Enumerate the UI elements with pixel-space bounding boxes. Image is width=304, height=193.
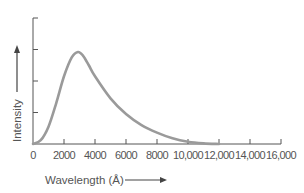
x-tick-labels: 0200040006000800010,00012,00014,00016,00… — [30, 149, 296, 161]
x-tick-label: 14,000 — [235, 149, 266, 161]
x-tick-label: 2000 — [53, 149, 76, 161]
x-tick-label: 4000 — [84, 149, 107, 161]
x-axis-title: Wavelength (Å) — [45, 174, 124, 186]
spectrum-chart: 0200040006000800010,00012,00014,00016,00… — [0, 0, 304, 193]
x-tick-label: 8000 — [146, 149, 169, 161]
intensity-curve — [33, 52, 219, 144]
axes — [33, 18, 281, 144]
x-tick-label: 10,000 — [173, 149, 204, 161]
x-tick-label: 16,000 — [266, 149, 297, 161]
x-tick-label: 0 — [30, 149, 36, 161]
x-tick-label: 6000 — [115, 149, 138, 161]
y-axis-title: Intensity — [11, 99, 23, 142]
curve-layer — [33, 52, 219, 144]
x-tick-label: 12,000 — [204, 149, 235, 161]
x-axis-arrow-icon — [125, 177, 167, 183]
y-axis-arrow-icon — [14, 45, 20, 92]
